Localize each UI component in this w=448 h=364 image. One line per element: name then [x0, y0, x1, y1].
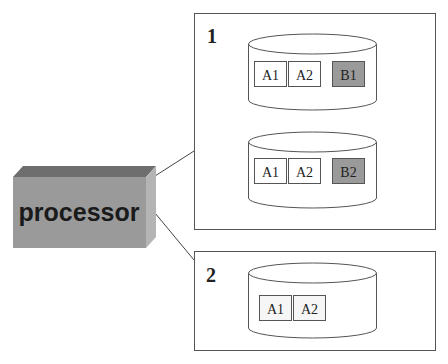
disk-cylinder: A1 A2 B1 — [249, 34, 377, 110]
data-block-highlighted: B2 — [333, 159, 365, 184]
svg-text:A1: A1 — [262, 165, 279, 180]
disk-cylinder: A1 A2 — [249, 263, 377, 338]
svg-text:A2: A2 — [301, 302, 318, 317]
diagram-canvas: processor 1 A1 A2 B1 — [0, 0, 448, 364]
data-block: A1 — [255, 62, 287, 87]
processor-top-face — [13, 166, 156, 177]
data-block: A2 — [289, 159, 321, 184]
disk-cylinder: A1 A2 B2 — [249, 132, 377, 208]
data-block: A2 — [289, 62, 321, 87]
processor-side-face — [146, 166, 156, 248]
svg-text:A2: A2 — [296, 68, 313, 83]
node-1: 1 A1 A2 B1 A1 — [195, 14, 436, 230]
svg-text:A2: A2 — [296, 165, 313, 180]
svg-text:A1: A1 — [267, 302, 284, 317]
svg-text:B2: B2 — [340, 165, 356, 180]
connector-to-node-2 — [155, 213, 194, 260]
processor-block: processor — [13, 166, 156, 248]
data-block: A2 — [294, 296, 326, 321]
svg-text:A1: A1 — [262, 68, 279, 83]
data-block: A1 — [260, 296, 292, 321]
node-2-label: 2 — [206, 264, 216, 286]
processor-label: processor — [19, 198, 140, 226]
node-2: 2 A1 A2 — [195, 252, 436, 351]
connector-to-node-1 — [155, 151, 194, 176]
svg-text:B1: B1 — [340, 68, 356, 83]
data-block-highlighted: B1 — [333, 62, 365, 87]
node-1-label: 1 — [207, 25, 217, 47]
data-block: A1 — [255, 159, 287, 184]
